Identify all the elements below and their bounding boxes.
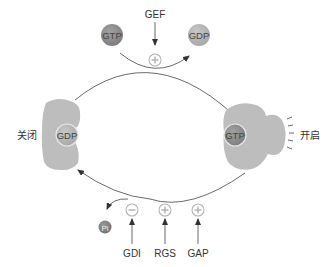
- rgs-label: RGS: [154, 248, 176, 259]
- svg-text:GTP: GTP: [225, 130, 245, 141]
- inactive-g-protein: GDP: [42, 99, 80, 170]
- gap-plus-icon: [192, 204, 204, 216]
- gtpase-cycle-diagram: GEF GTP GDP GDP 关闭 GTP 开启: [0, 0, 325, 267]
- gdi-label: GDI: [123, 248, 141, 259]
- gtp-top-molecule: GTP: [101, 24, 123, 46]
- gdi-minus-icon: [126, 204, 138, 216]
- gdp-top-molecule: GDP: [188, 24, 210, 46]
- svg-text:GDP: GDP: [189, 30, 210, 41]
- signal-ticks-icon: [287, 117, 294, 149]
- svg-text:GDP: GDP: [57, 130, 78, 141]
- on-state-label: 开启: [300, 129, 320, 141]
- gef-label: GEF: [145, 9, 166, 20]
- pi-release-arc: [107, 199, 128, 209]
- svg-text:Pi: Pi: [101, 224, 108, 233]
- pi-molecule: Pi: [99, 221, 112, 234]
- rgs-plus-icon: [159, 204, 171, 216]
- svg-text:GTP: GTP: [102, 30, 122, 41]
- gap-label: GAP: [187, 248, 208, 259]
- activation-arc: [75, 73, 243, 124]
- gef-plus-icon: [149, 54, 161, 66]
- active-g-protein: GTP: [223, 103, 285, 169]
- inactivation-arc: [78, 170, 245, 202]
- off-state-label: 关闭: [17, 129, 37, 141]
